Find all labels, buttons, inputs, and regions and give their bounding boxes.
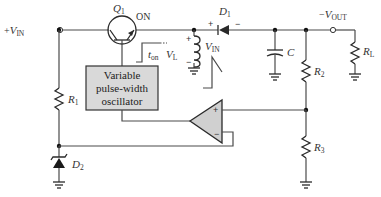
ground-icon	[269, 74, 281, 80]
ground-icon	[53, 182, 65, 188]
q1-label: Q1	[113, 2, 125, 16]
r3-label: R3	[313, 141, 325, 155]
input-terminal: +VIN	[4, 24, 63, 38]
svg-text:−: −	[214, 129, 219, 139]
ramp-vin-label: VIN	[205, 40, 220, 54]
transistor-q1: Q1 ON	[108, 2, 150, 66]
svg-text:−: −	[235, 19, 240, 29]
svg-text:pulse-width: pulse-width	[96, 82, 148, 94]
ground-icon	[349, 74, 361, 80]
d1-label: D1	[218, 5, 231, 19]
error-amplifier-opamp: + −	[190, 100, 222, 143]
resistor-r2: R2	[302, 30, 325, 110]
resistor-r1: R1	[55, 30, 79, 146]
svg-text:−: −	[186, 57, 191, 67]
inverting-switching-regulator-schematic: +VIN R1 D2 Q1 ON ton	[0, 0, 381, 197]
zener-diode-d2: D2	[51, 146, 84, 182]
c-label: C	[287, 46, 295, 58]
reference-feedback-wire	[59, 132, 233, 146]
q1-state-label: ON	[136, 11, 150, 22]
inductor-l: + − VL	[166, 30, 200, 68]
svg-text:oscillator: oscillator	[102, 95, 143, 107]
pulse-width-oscillator-block: Variable pulse-width oscillator	[86, 66, 158, 110]
vl-label: VL	[166, 48, 178, 62]
input-terminal-label: +VIN	[4, 24, 25, 38]
svg-text:Variable: Variable	[104, 69, 141, 81]
capacitor-c: C	[267, 30, 295, 74]
d2-label: D2	[71, 158, 84, 172]
ton-label: ton	[148, 48, 159, 62]
resistor-rl: RL	[351, 30, 375, 74]
output-terminal: −VOUT	[319, 8, 347, 33]
rl-label: RL	[362, 45, 375, 59]
resistor-r3: R3	[302, 110, 325, 182]
vin-ramp-waveform: VIN	[203, 40, 222, 88]
oscillator-to-opamp-wire	[122, 110, 190, 121]
svg-text:+: +	[208, 19, 213, 29]
r2-label: R2	[313, 65, 325, 79]
output-terminal-label: −VOUT	[319, 8, 347, 22]
ground-icon	[300, 182, 312, 188]
r1-label: R1	[67, 93, 79, 107]
ground-icon	[188, 68, 200, 74]
ton-pulse-waveform: ton	[136, 43, 167, 62]
svg-text:+: +	[213, 105, 218, 115]
svg-text:+: +	[186, 34, 191, 44]
